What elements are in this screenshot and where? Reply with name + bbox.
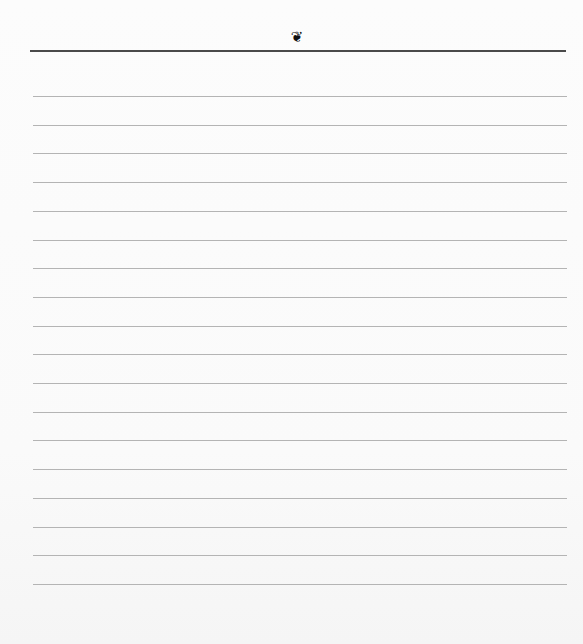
ruled-lines [33,0,567,644]
ruled-line [33,211,567,212]
notebook-page: ❦ [0,0,583,644]
ruled-line [33,527,567,528]
ruled-line [33,326,567,327]
ruled-line [33,182,567,183]
ruled-line [33,412,567,413]
ruled-line [33,584,567,585]
ruled-line [33,125,567,126]
ruled-line [33,268,567,269]
ruled-line [33,498,567,499]
ruled-line [33,354,567,355]
ruled-line [33,240,567,241]
ruled-line [33,96,567,97]
ruled-line [33,440,567,441]
ruled-line [33,297,567,298]
ruled-line [33,469,567,470]
ruled-line [33,383,567,384]
ruled-line [33,555,567,556]
ruled-line [33,153,567,154]
